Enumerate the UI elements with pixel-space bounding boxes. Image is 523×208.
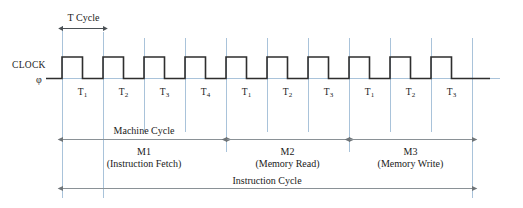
t-state-label: T3	[308, 88, 349, 98]
t-state-text: T	[283, 87, 289, 97]
t-state-text: T	[160, 87, 166, 97]
t-state-label: T2	[390, 88, 431, 98]
t-state-index: 3	[453, 91, 457, 99]
t-cycle-label: T Cycle	[63, 13, 104, 23]
machine-cycle-m2-name: M2	[226, 147, 349, 157]
t-state-label: T4	[185, 88, 226, 98]
gridlines	[63, 26, 473, 198]
t-state-label: T2	[267, 88, 308, 98]
machine-cycle-caption: Machine Cycle	[62, 126, 226, 136]
t-state-index: 1	[371, 91, 375, 99]
t-state-label: T1	[62, 88, 103, 98]
t-state-text: T	[242, 87, 248, 97]
machine-cycle-m1-name: M1	[62, 147, 226, 157]
t-state-label: T3	[144, 88, 185, 98]
machine-cycle-m3-name: M3	[349, 147, 472, 157]
t-state-label: T2	[103, 88, 144, 98]
clock-phi-symbol: φ	[36, 75, 42, 85]
t-state-index: 4	[207, 91, 211, 99]
t-state-text: T	[324, 87, 330, 97]
t-state-index: 3	[166, 91, 170, 99]
t-state-text: T	[201, 87, 207, 97]
t-state-text: T	[119, 87, 125, 97]
t-state-index: 3	[330, 91, 334, 99]
t-state-label: T1	[226, 88, 267, 98]
t-state-text: T	[78, 87, 84, 97]
instruction-cycle-label: Instruction Cycle	[62, 176, 472, 186]
t-state-index: 1	[84, 91, 88, 99]
t-state-text: T	[447, 87, 453, 97]
machine-cycle-m2-description: (Memory Read)	[226, 159, 349, 169]
timing-diagram: CLOCK φ T Cycle T1 T2 T3 T4 T1 T2 T3 T1 …	[0, 0, 523, 208]
t-state-index: 2	[289, 91, 293, 99]
t-state-text: T	[406, 87, 412, 97]
t-state-label: T1	[349, 88, 390, 98]
clock-label: CLOCK	[12, 61, 46, 71]
t-state-label: T3	[431, 88, 472, 98]
t-state-index: 2	[412, 91, 416, 99]
t-state-text: T	[365, 87, 371, 97]
t-state-index: 2	[125, 91, 129, 99]
t-state-index: 1	[248, 91, 252, 99]
machine-cycle-m3-description: (Memory Write)	[349, 159, 472, 169]
machine-cycle-m1-description: (Instruction Fetch)	[62, 159, 226, 169]
